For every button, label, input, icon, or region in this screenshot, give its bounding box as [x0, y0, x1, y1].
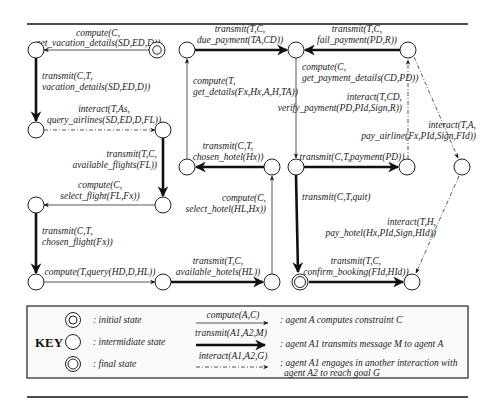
svg-text:interact(T,H,: interact(T,H,	[387, 217, 436, 228]
svg-text:transmit(T,C,: transmit(T,C,	[331, 256, 382, 267]
svg-text:compute(A,C): compute(A,C)	[206, 310, 259, 321]
key-final-state-icon	[66, 357, 81, 372]
svg-text:select_hotel(HL,Hx)): select_hotel(HL,Hx))	[186, 204, 266, 215]
svg-text:transmit(T,C,: transmit(T,C,	[193, 256, 244, 267]
svg-text:pay_airline(Fx,PId,Sign,FId)): pay_airline(Fx,PId,Sign,FId))	[360, 131, 476, 142]
svg-text:pay_hotel(Hx,PId,Sign,HId)): pay_hotel(Hx,PId,Sign,HId))	[324, 228, 436, 239]
edge-chosen-hotel: transmit(C,T, chosen_hotel(Hx))	[193, 141, 264, 167]
svg-text:transmit(T,C,: transmit(T,C,	[215, 24, 266, 35]
edge-available-hotels: transmit(T,C, available_hotels(HL))	[171, 256, 263, 282]
key-intermediate-state-icon	[66, 335, 81, 350]
edge-chosen-flight: transmit(C,T, chosen_flight(Fx))	[36, 213, 113, 273]
svg-text:get_payment_details(CD,PD)): get_payment_details(CD,PD))	[302, 73, 418, 84]
svg-text:chosen_hotel(Hx)): chosen_hotel(Hx))	[193, 152, 264, 163]
svg-text:transmit(C,T,quit): transmit(C,T,quit)	[302, 192, 370, 203]
svg-text:compute(C,: compute(C,	[222, 193, 266, 204]
svg-text:: agent A1 transmits message M: : agent A1 transmits message M to agent …	[280, 339, 443, 349]
svg-text:transmit(C,T,: transmit(C,T,	[42, 71, 93, 82]
svg-text:available_hotels(HL)): available_hotels(HL))	[176, 267, 260, 278]
svg-text:: initial state: : initial state	[93, 315, 142, 325]
svg-text:verify_payment(PD,PId,Sign,R)): verify_payment(PD,PId,Sign,R))	[278, 103, 402, 114]
edge-fail-payment: transmit(T,C, fail_payment(PD,R))	[305, 24, 400, 50]
edge-query-airlines: interact(T,As, query_airlines(SD,ED,D,FL…	[44, 104, 161, 130]
svg-text:transmit(T,C,: transmit(T,C,	[332, 24, 383, 35]
protocol-diagram: compute(C, get_vacation_details(SD,ED,D)…	[0, 0, 494, 407]
edge-payment: transmit(C,T,payment(PD))	[300, 152, 405, 167]
svg-text:query_airlines(SD,ED,D,FL)): query_airlines(SD,ED,D,FL))	[47, 115, 161, 126]
state-final	[292, 274, 308, 290]
svg-text:transmit(C,T,: transmit(C,T,	[203, 141, 254, 152]
svg-text:vacation_details(SD,ED,D)): vacation_details(SD,ED,D))	[42, 82, 150, 93]
key-legend: KEY : initial state : intermidiate state…	[27, 306, 468, 378]
svg-text:agent A2 to reach goal G: agent A2 to reach goal G	[284, 368, 380, 378]
edge-due-payment: transmit(T,C, due_payment(TA,CD))	[195, 24, 287, 50]
edge-select-flight: compute(C, select_flight(FL,Fx))	[44, 180, 155, 205]
svg-text:interact(T,CD,: interact(T,CD,	[347, 92, 402, 103]
svg-text:: agent A1 engages in another: : agent A1 engages in another interactio…	[280, 358, 458, 368]
svg-text:due_payment(TA,CD)): due_payment(TA,CD))	[197, 35, 283, 46]
svg-text:: final state: : final state	[93, 359, 136, 369]
edge-get-vacation-details: compute(C, get_vacation_details(SD,ED,D)…	[36, 28, 161, 50]
svg-text:transmit(T,C,: transmit(T,C,	[106, 149, 157, 160]
svg-text:confirm_booking(FId,HId)): confirm_booking(FId,HId))	[303, 267, 408, 278]
key-initial-state-icon	[66, 313, 81, 328]
edge-confirm-booking: transmit(T,C, confirm_booking(FId,HId))	[303, 256, 408, 282]
svg-text:compute(C,: compute(C,	[302, 62, 346, 73]
key-title: KEY	[35, 335, 64, 350]
edge-query-hotels: compute(T,query(HD,D,HL))	[44, 267, 155, 282]
svg-text:fail_payment(PD,R)): fail_payment(PD,R))	[317, 35, 397, 46]
svg-text:compute(T,query(HD,D,HL)): compute(T,query(HD,D,HL))	[45, 267, 156, 278]
svg-text:get_vacation_details(SD,ED,D)): get_vacation_details(SD,ED,D))	[36, 38, 161, 49]
svg-text:available_flights(FL)): available_flights(FL))	[73, 160, 157, 171]
svg-text:interact(A1,A2,G): interact(A1,A2,G)	[199, 351, 268, 362]
svg-text:chosen_flight(Fx)): chosen_flight(Fx))	[42, 237, 113, 248]
svg-text:transmit(C,T,payment(PD)): transmit(C,T,payment(PD))	[300, 152, 405, 163]
svg-text:get_details(Fx,Hx,A,H,TA)): get_details(Fx,Hx,A,H,TA))	[193, 87, 298, 98]
state-initial	[149, 42, 165, 58]
svg-text:compute(T,: compute(T,	[193, 76, 235, 87]
svg-text:interact(T,A,: interact(T,A,	[428, 120, 476, 131]
svg-text:transmit(C,T,: transmit(C,T,	[42, 226, 93, 237]
svg-text:: agent A computes constraint: : agent A computes constraint C	[280, 315, 403, 325]
svg-text:select_flight(FL,Fx)): select_flight(FL,Fx))	[60, 191, 139, 202]
svg-text:interact(T,As,: interact(T,As,	[78, 104, 130, 115]
svg-text:transmit(A1,A2,M): transmit(A1,A2,M)	[195, 328, 267, 339]
svg-text:: intermidiate state: : intermidiate state	[93, 337, 165, 347]
svg-text:compute(C,: compute(C,	[78, 180, 122, 191]
